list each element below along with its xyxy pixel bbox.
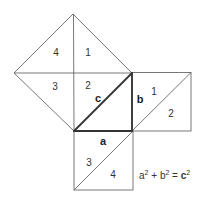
side-label-a: a xyxy=(100,135,107,147)
formula-c-exponent: 2 xyxy=(186,169,190,176)
hypotenuse-square xyxy=(14,14,132,131)
hypotenuse-square-vertical-cut xyxy=(74,14,75,131)
piece-label-3: 3 xyxy=(52,81,58,92)
piece-label-a4: 4 xyxy=(110,169,116,180)
piece-label-1: 1 xyxy=(85,47,91,58)
piece-label-b2: 2 xyxy=(168,108,174,119)
hypotenuse-c xyxy=(74,73,132,131)
piece-label-2: 2 xyxy=(85,80,91,91)
piece-label-a3: 3 xyxy=(86,157,92,168)
formula-plus: + xyxy=(148,170,159,181)
pythagorean-formula: a2 + b2 = c2 xyxy=(139,170,190,181)
side-label-b: b xyxy=(137,93,144,105)
piece-label-4: 4 xyxy=(53,47,59,58)
right-triangle xyxy=(74,73,132,131)
hypotenuse-square-outline xyxy=(14,14,132,131)
piece-label-b1: 1 xyxy=(151,86,157,97)
formula-equals: = xyxy=(169,170,180,181)
side-label-c: c xyxy=(95,92,101,104)
